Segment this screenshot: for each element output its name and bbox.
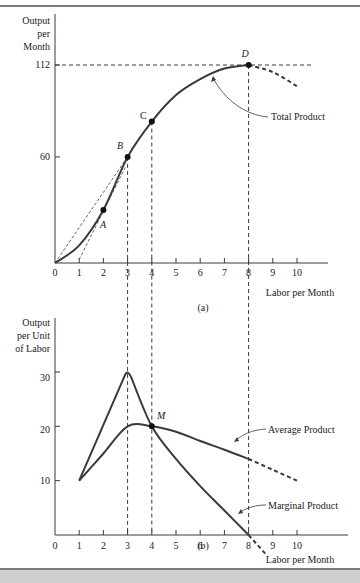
average-product-curve bbox=[79, 424, 248, 481]
marginal-product-curve-extension bbox=[249, 535, 266, 554]
point-label-c: C bbox=[140, 110, 147, 121]
x-tick-label-b: 1 bbox=[77, 540, 82, 551]
chart-marks: 012345678910012345678910 bbox=[53, 14, 349, 554]
x-tick-label-a: 10 bbox=[292, 267, 302, 278]
y-tick-label-60: 60 bbox=[40, 151, 50, 162]
y-label-a-line2: per bbox=[37, 28, 50, 39]
x-tick-label-b: 2 bbox=[101, 540, 106, 551]
total-product-label: Total Product bbox=[271, 111, 325, 122]
total-product-curve-extension bbox=[249, 65, 297, 86]
panel-label-a: (a) bbox=[197, 302, 208, 314]
x-tick-label-a: 9 bbox=[270, 267, 275, 278]
x-tick-label-b: 3 bbox=[125, 540, 130, 551]
point-m bbox=[149, 423, 155, 429]
y-tick-label-112: 112 bbox=[35, 59, 50, 70]
x-tick-label-b: 7 bbox=[222, 540, 227, 551]
marginal-product-curve bbox=[79, 373, 248, 535]
x-tick-label-a: 0 bbox=[53, 267, 58, 278]
marginal-product-label: Marginal Product bbox=[268, 500, 338, 511]
average-product-arrowhead bbox=[234, 437, 239, 442]
x-tick-label-b: 10 bbox=[292, 540, 302, 551]
point-label-a: A bbox=[99, 219, 107, 230]
x-tick-label-a: 5 bbox=[174, 267, 179, 278]
x-tick-label-b: 9 bbox=[270, 540, 275, 551]
marginal-product-arrowhead bbox=[238, 509, 243, 514]
y-tick-label-10: 10 bbox=[40, 475, 50, 486]
y-label-b-line2: per Unit bbox=[17, 330, 50, 341]
x-tick-label-b: 5 bbox=[174, 540, 179, 551]
average-product-curve-extension bbox=[249, 459, 297, 481]
y-label-a-line1: Output bbox=[22, 15, 50, 26]
x-tick-label-b: 8 bbox=[246, 540, 251, 551]
y-tick-label-20: 20 bbox=[40, 424, 50, 435]
ray-origin-to-b bbox=[55, 157, 128, 263]
marginal-product-pointer bbox=[240, 505, 266, 512]
x-tick-label-a: 7 bbox=[222, 267, 227, 278]
x-tick-label-a: 2 bbox=[101, 267, 106, 278]
x-label-b: Labor per Month bbox=[266, 554, 334, 565]
total-product-pointer bbox=[213, 78, 268, 117]
total-product-arrowhead bbox=[211, 76, 216, 82]
average-product-label: Average Product bbox=[268, 424, 335, 435]
point-d bbox=[246, 62, 252, 68]
average-product-pointer bbox=[236, 429, 266, 440]
x-tick-label-b: 4 bbox=[149, 540, 154, 551]
x-tick-label-b: 6 bbox=[198, 540, 203, 551]
y-label-b-line3: of Labor bbox=[15, 343, 50, 354]
x-label-a: Labor per Month bbox=[266, 287, 334, 298]
point-a bbox=[100, 207, 106, 213]
panel-b: Output per Unit of Labor 30 20 10 Labor … bbox=[15, 317, 338, 565]
point-b bbox=[125, 154, 131, 160]
y-label-b-line1: Output bbox=[22, 317, 50, 328]
x-tick-label-a: 6 bbox=[198, 267, 203, 278]
point-label-d: D bbox=[240, 48, 249, 59]
y-tick-label-30: 30 bbox=[40, 372, 50, 383]
x-tick-label-a: 1 bbox=[77, 267, 82, 278]
y-label-a-line3: Month bbox=[23, 41, 50, 52]
point-label-b: B bbox=[117, 140, 123, 151]
x-tick-label-b: 0 bbox=[53, 540, 58, 551]
point-label-m: M bbox=[156, 410, 166, 421]
point-c bbox=[149, 119, 155, 125]
